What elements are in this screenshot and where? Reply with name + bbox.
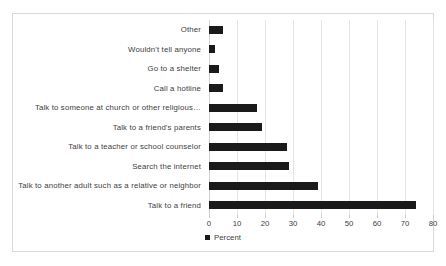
category-label: Talk to a friend [148,201,201,210]
bar [209,45,215,53]
tick-mark-40 [321,215,322,218]
tick-mark-50 [349,215,350,218]
bar [209,201,416,209]
tick-label-40: 40 [317,219,326,228]
bar-row [209,40,433,60]
value-axis: 01020304050607080 [209,215,433,231]
tick-label-10: 10 [233,219,242,228]
bar [209,182,318,190]
bar-row [209,196,433,216]
category-label-row: Talk to someone at church or other relig… [13,98,205,118]
tick-label-60: 60 [373,219,382,228]
bar-row [209,98,433,118]
bar-row [209,79,433,99]
category-label: Talk to a friend's parents [113,123,201,132]
chart-legend: Percent [13,233,433,242]
category-axis-labels: OtherWouldn't tell anyoneGo to a shelter… [13,20,205,215]
category-label: Talk to another adult such as a relative… [18,181,201,190]
tick-label-70: 70 [401,219,410,228]
category-label: Go to a shelter [148,64,201,73]
chart-frame: OtherWouldn't tell anyoneGo to a shelter… [12,13,434,252]
bar [209,26,223,34]
category-label: Other [181,25,201,34]
tick-mark-10 [237,215,238,218]
bar-row [209,118,433,138]
tick-mark-0 [209,215,210,218]
category-label: Talk to a teacher or school counselor [68,142,201,151]
plot-area [209,20,433,215]
tick-label-0: 0 [207,219,211,228]
category-label-row: Talk to a friend [13,196,205,216]
legend-label: Percent [214,233,241,242]
tick-label-20: 20 [261,219,270,228]
category-label-row: Talk to another adult such as a relative… [13,176,205,196]
tick-mark-20 [265,215,266,218]
category-label-row: Go to a shelter [13,59,205,79]
category-label: Call a hotline [154,84,201,93]
category-label-row: Wouldn't tell anyone [13,40,205,60]
legend-swatch-icon [205,235,210,240]
tick-label-80: 80 [429,219,438,228]
category-label: Wouldn't tell anyone [128,45,201,54]
tick-mark-80 [433,215,434,218]
bar-series-percent [209,20,433,215]
category-label-row: Call a hotline [13,79,205,99]
category-label: Talk to someone at church or other relig… [35,103,201,112]
category-label-row: Search the internet [13,157,205,177]
category-label-row: Other [13,20,205,40]
bar [209,143,287,151]
category-label: Search the internet [132,162,201,171]
bar-row [209,157,433,177]
gridline-80 [433,20,434,215]
tick-mark-30 [293,215,294,218]
tick-mark-60 [377,215,378,218]
bar-row [209,176,433,196]
tick-label-50: 50 [345,219,354,228]
tick-mark-70 [405,215,406,218]
bar [209,162,289,170]
category-label-row: Talk to a friend's parents [13,118,205,138]
bar-row [209,59,433,79]
bar [209,65,219,73]
bar [209,123,262,131]
tick-label-30: 30 [289,219,298,228]
bar [209,104,257,112]
bar-row [209,137,433,157]
category-label-row: Talk to a teacher or school counselor [13,137,205,157]
bar-row [209,20,433,40]
bar [209,84,223,92]
